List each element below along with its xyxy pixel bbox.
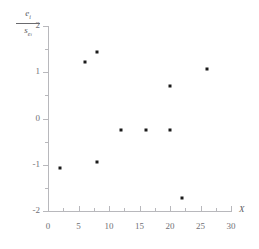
- y-tick-major: [43, 165, 49, 166]
- y-tick-label: 2: [18, 21, 40, 30]
- data-point: [120, 129, 123, 132]
- x-tick-label: 15: [129, 222, 151, 231]
- x-tick-minor: [185, 208, 186, 212]
- data-point: [95, 161, 98, 164]
- x-tick-label: 5: [68, 222, 90, 231]
- data-point: [83, 61, 86, 64]
- x-tick-major: [109, 206, 110, 212]
- x-tick-minor: [155, 208, 156, 212]
- x-tick-major: [79, 206, 80, 212]
- x-tick-label: 10: [98, 222, 120, 231]
- y-tick-minor: [45, 49, 49, 50]
- x-tick-label: 25: [190, 222, 212, 231]
- data-point: [169, 129, 172, 132]
- x-tick-major: [231, 206, 232, 212]
- y-tick-minor: [45, 188, 49, 189]
- scatter-plot-figure: ei sei X 210-1-2051015202530: [0, 0, 259, 249]
- x-tick-label: 20: [159, 222, 181, 231]
- x-tick-major: [48, 206, 49, 212]
- y-tick-major: [43, 119, 49, 120]
- y-tick-major: [43, 26, 49, 27]
- x-tick-major: [201, 206, 202, 212]
- data-point: [59, 166, 62, 169]
- x-tick-major: [170, 206, 171, 212]
- x-tick-minor: [63, 208, 64, 212]
- x-tick-label: 0: [37, 222, 59, 231]
- y-tick-label: 0: [18, 114, 40, 123]
- x-axis-label: X: [239, 204, 245, 214]
- data-point: [144, 129, 147, 132]
- y-tick-minor: [45, 95, 49, 96]
- y-tick-label: -1: [18, 160, 40, 169]
- x-tick-minor: [216, 208, 217, 212]
- x-tick-minor: [94, 208, 95, 212]
- data-point: [169, 85, 172, 88]
- data-point: [95, 50, 98, 53]
- x-tick-major: [140, 206, 141, 212]
- x-tick-minor: [124, 208, 125, 212]
- x-tick-label: 30: [220, 222, 242, 231]
- data-point: [181, 197, 184, 200]
- y-tick-minor: [45, 142, 49, 143]
- y-tick-label: -2: [18, 206, 40, 215]
- data-point: [205, 68, 208, 71]
- y-tick-label: 1: [18, 67, 40, 76]
- y-tick-major: [43, 72, 49, 73]
- plot-area: 210-1-2051015202530: [48, 26, 231, 211]
